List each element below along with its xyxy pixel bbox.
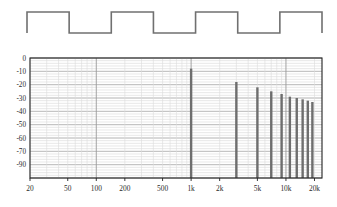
- y-tick-label: 0: [22, 55, 26, 63]
- x-tick-label: 2k: [216, 184, 224, 193]
- spectrum-bar: [289, 97, 291, 178]
- spectrum-bar: [190, 69, 192, 178]
- spectrum-bar: [301, 99, 303, 178]
- x-tick-label: 500: [157, 184, 168, 193]
- x-axis-labels: 20501002005001k2k5k10k20k: [26, 178, 320, 193]
- spectrum-bar: [235, 82, 237, 178]
- y-axis-labels: 0-10-20-30-40-50-60-70-90: [16, 55, 26, 170]
- y-tick-label: -30: [16, 95, 26, 103]
- y-tick-label: -10: [16, 68, 26, 76]
- x-tick-label: 1k: [187, 184, 195, 193]
- y-tick-label: -70: [16, 148, 26, 156]
- x-tick-label: 50: [64, 184, 72, 193]
- x-tick-label: 10k: [280, 184, 291, 193]
- plot-background: [30, 58, 322, 178]
- y-tick-label: -50: [16, 121, 26, 129]
- spectrum-panel: 0-10-20-30-40-50-60-70-9020501002005001k…: [0, 48, 337, 207]
- x-tick-label: 20: [26, 184, 34, 193]
- spectrum-bar: [256, 87, 258, 178]
- waveform-plot: [0, 0, 337, 48]
- square-wave-trace: [27, 12, 322, 33]
- x-tick-label: 200: [119, 184, 130, 193]
- spectrum-bar: [307, 101, 309, 178]
- y-tick-label: -60: [16, 135, 26, 143]
- figure-root: 0-10-20-30-40-50-60-70-9020501002005001k…: [0, 0, 337, 207]
- spectrum-bar: [311, 102, 313, 178]
- y-tick-label: -40: [16, 108, 26, 116]
- waveform-panel: [0, 0, 337, 48]
- spectrum-plot: 0-10-20-30-40-50-60-70-9020501002005001k…: [0, 48, 337, 207]
- spectrum-bar: [270, 91, 272, 178]
- spectrum-bar: [296, 98, 298, 178]
- spectrum-bar: [280, 94, 282, 178]
- y-tick-label: -90: [16, 161, 26, 169]
- x-tick-label: 5k: [254, 184, 262, 193]
- x-tick-label: 20k: [309, 184, 320, 193]
- y-tick-label: -20: [16, 81, 26, 89]
- x-tick-label: 100: [91, 184, 102, 193]
